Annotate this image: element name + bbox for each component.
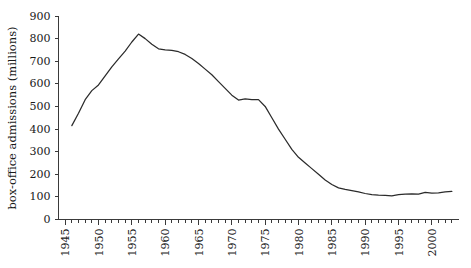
y-axis-title: box-office admissions (millions): [5, 26, 19, 209]
axis-lines: [59, 16, 459, 220]
x-axis-tick-label: 1950: [93, 229, 106, 257]
y-axis-ticks: 0100200300400500600700800900: [30, 10, 59, 227]
x-axis-tick-label: 1990: [359, 229, 372, 257]
x-axis-tick-label: 2000: [426, 229, 439, 257]
y-axis-tick-label: 0: [44, 213, 51, 226]
x-axis-tick-label: 1970: [226, 229, 239, 257]
x-axis-tick-labels: 1945195019551960196519701975198019851990…: [59, 229, 439, 257]
x-axis-tick-label: 1975: [259, 229, 272, 257]
x-axis-tick-label: 1995: [393, 229, 406, 257]
x-axis-tick-label: 1955: [126, 229, 139, 257]
data-line-box-office-admissions: [72, 34, 452, 196]
y-axis-tick-label: 900: [30, 10, 51, 23]
x-axis-tick-label: 1965: [193, 229, 206, 257]
x-axis-tick-label: 1945: [59, 229, 72, 257]
x-axis-tick-label: 1985: [326, 229, 339, 257]
x-axis-minor-ticks: [65, 220, 452, 224]
y-axis-tick-label: 800: [30, 32, 51, 45]
y-axis-tick-label: 500: [30, 100, 51, 113]
y-axis-tick-label: 100: [30, 190, 51, 203]
x-axis-major-ticks: [65, 220, 432, 226]
x-axis-tick-label: 1980: [293, 229, 306, 257]
y-axis-tick-label: 400: [30, 123, 51, 136]
y-axis-tick-label: 700: [30, 55, 51, 68]
y-axis-tick-label: 300: [30, 145, 51, 158]
y-axis-title-text: box-office admissions (millions): [5, 26, 19, 209]
y-axis-tick-label: 600: [30, 77, 51, 90]
y-axis-tick-label: 200: [30, 168, 51, 181]
chart-figure: box-office admissions (millions) 0100200…: [0, 0, 471, 268]
line-chart-canvas: box-office admissions (millions) 0100200…: [0, 0, 471, 268]
data-series-group: [72, 34, 452, 196]
x-axis-tick-label: 1960: [159, 229, 172, 257]
